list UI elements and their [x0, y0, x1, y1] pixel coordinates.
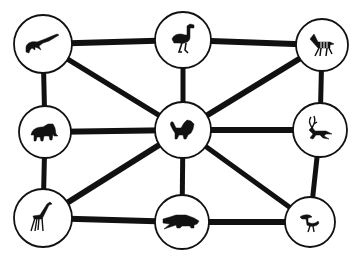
node-circle — [14, 189, 72, 247]
node-circle — [285, 197, 335, 247]
node-lion — [155, 102, 211, 158]
node-elephant — [19, 106, 71, 158]
node-zebra — [296, 19, 348, 71]
node-hippo — [155, 195, 209, 249]
node-crocodile — [14, 15, 72, 73]
node-bird — [285, 197, 335, 247]
node-circle — [293, 103, 347, 157]
animal-graph-diagram — [0, 0, 357, 268]
nodes-layer — [0, 0, 357, 268]
node-giraffe — [14, 189, 72, 247]
node-antelope — [293, 103, 347, 157]
node-ostrich — [155, 12, 211, 68]
node-circle — [14, 15, 72, 73]
